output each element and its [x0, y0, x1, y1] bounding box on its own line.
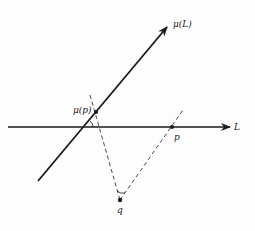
- label-p: p: [174, 133, 180, 142]
- label-q: q: [117, 206, 123, 215]
- point-q: [118, 198, 122, 202]
- point-p: [170, 125, 174, 129]
- dashed-line-q-to-p: [120, 110, 183, 200]
- angle-arc-intersection: [90, 121, 93, 127]
- line-mu-L: [38, 27, 167, 181]
- diagram-svg: [0, 0, 255, 231]
- label-L: L: [234, 123, 240, 132]
- label-mu-p: μ(p): [73, 106, 92, 115]
- label-mu-L: μ(L): [173, 20, 192, 29]
- point-mu-p: [94, 110, 98, 114]
- diagram-canvas: μ(L) L μ(p) p q: [0, 0, 255, 231]
